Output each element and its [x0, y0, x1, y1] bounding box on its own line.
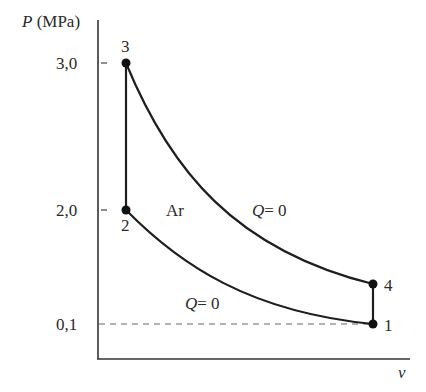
state-point-4: [369, 280, 378, 289]
tick-label-2-0: 2,0: [56, 202, 77, 219]
lower-process-label: Q= 0: [185, 295, 220, 312]
y-axis-title: P (MPa): [22, 13, 80, 30]
upper-q-symbol: Q: [252, 201, 264, 220]
state-label-4: 4: [384, 277, 393, 294]
process-3-4: [126, 63, 373, 284]
lower-q-value: = 0: [197, 294, 219, 313]
y-axis-symbol: P: [22, 12, 32, 31]
tick-label-3-0: 3,0: [56, 55, 77, 72]
lower-q-symbol: Q: [185, 294, 197, 313]
state-point-1: [369, 320, 378, 329]
state-point-2: [122, 206, 131, 215]
process-1-2: [126, 210, 373, 324]
gas-label: Ar: [166, 202, 184, 219]
tick-label-0-1: 0,1: [56, 316, 77, 333]
state-point-3: [122, 59, 131, 68]
state-label-3: 3: [121, 38, 130, 55]
y-axis-unit: (MPa): [37, 12, 80, 31]
upper-q-value: = 0: [264, 201, 286, 220]
x-axis-label: v: [398, 364, 406, 381]
state-label-1: 1: [384, 317, 393, 334]
state-label-2: 2: [121, 217, 130, 234]
upper-process-label: Q= 0: [252, 202, 287, 219]
